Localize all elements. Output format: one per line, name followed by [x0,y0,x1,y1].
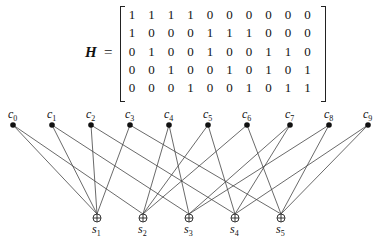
graph-edge [247,125,281,214]
variable-node-label: c8 [324,107,333,123]
xor-check-node-icon [231,214,239,222]
xor-check-node-icon [93,214,101,222]
variable-node-label: c9 [363,107,372,123]
xor-check-node-icon [139,214,147,222]
variable-node-label: c2 [86,107,95,123]
graph-edge [13,125,143,214]
check-node-label: s2 [138,222,147,238]
graph-edge [13,125,97,214]
check-node-label: s3 [184,222,193,238]
graph-edge [143,125,169,214]
xor-check-node-icon [185,214,193,222]
graph-edge [235,125,290,214]
graph-edge [169,125,189,214]
variable-node-label: c6 [242,107,251,123]
graph-edge [281,125,368,214]
variable-node-label: c3 [125,107,134,123]
xor-check-node-icon [277,214,285,222]
graph-edge [91,125,235,214]
variable-node-label: c0 [8,107,17,123]
check-node-label: s4 [230,222,239,238]
tanner-graph [0,0,379,243]
variable-node-label: c5 [203,107,212,123]
variable-node-label: c4 [164,107,173,123]
check-node-label: s1 [92,222,101,238]
variable-node-label: c7 [285,107,294,123]
graph-edge [235,125,368,214]
graph-edge [281,125,329,214]
graph-edge [91,125,97,214]
graph-edge [97,125,130,214]
graph-edge [143,125,247,214]
graph-edge [52,125,189,214]
graph-edge [189,125,290,214]
graph-edge [52,125,97,214]
variable-node-label: c1 [47,107,56,123]
check-node-label: s5 [276,222,285,238]
